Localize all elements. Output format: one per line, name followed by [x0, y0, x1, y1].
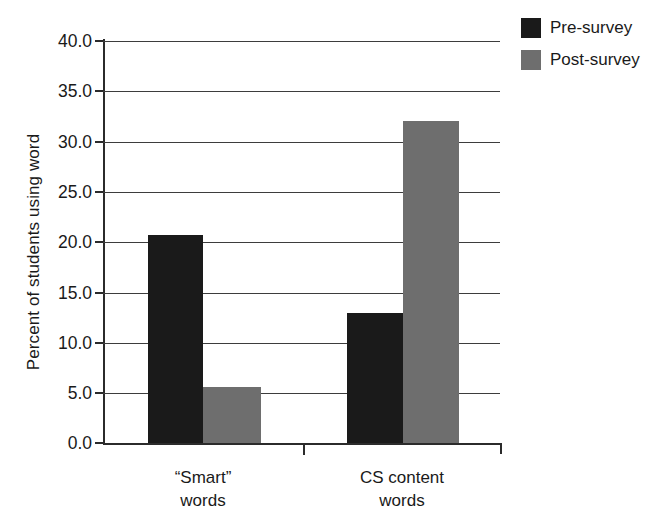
x-category-label-line2: words [93, 489, 313, 512]
y-tick-label: 25.0 [2, 182, 92, 203]
legend-label: Pre-survey [550, 18, 632, 38]
plot-area [103, 41, 500, 443]
x-category-label-line1: CS content [360, 468, 444, 487]
bar-chart: Percent of students using word 40.0 35.0… [0, 0, 670, 523]
x-category-label-line2: words [292, 489, 512, 512]
legend-item-post-survey: Post-survey [521, 44, 666, 76]
x-category-label-line1: “Smart” [175, 468, 232, 487]
y-tick-label: 15.0 [2, 283, 92, 304]
legend-label: Post-survey [550, 50, 640, 70]
y-tick-label: 30.0 [2, 132, 92, 153]
y-tick-label: 40.0 [2, 31, 92, 52]
gridline [103, 91, 500, 92]
bar-cs-content-post-survey [403, 121, 459, 443]
y-tick-label: 20.0 [2, 232, 92, 253]
gridline [103, 41, 500, 42]
x-category-label-smart: “Smart” words [93, 466, 313, 512]
y-tick-label: 0.0 [2, 433, 92, 454]
y-axis-tick-labels: 40.0 35.0 30.0 25.0 20.0 15.0 10.0 5.0 0… [0, 0, 92, 523]
legend-swatch-icon [521, 50, 541, 70]
bar-cs-content-pre-survey [347, 313, 403, 443]
bar-smart-pre-survey [148, 235, 203, 443]
bar-smart-post-survey [203, 387, 261, 443]
y-tick-label: 5.0 [2, 383, 92, 404]
x-tick-mark [303, 444, 305, 455]
legend: Pre-survey Post-survey [521, 12, 666, 76]
y-tick-label: 10.0 [2, 333, 92, 354]
x-axis-right-cap [500, 443, 502, 454]
legend-swatch-icon [521, 18, 541, 38]
y-tick-label: 35.0 [2, 81, 92, 102]
x-category-label-cs-content: CS content words [292, 466, 512, 512]
legend-item-pre-survey: Pre-survey [521, 12, 666, 44]
